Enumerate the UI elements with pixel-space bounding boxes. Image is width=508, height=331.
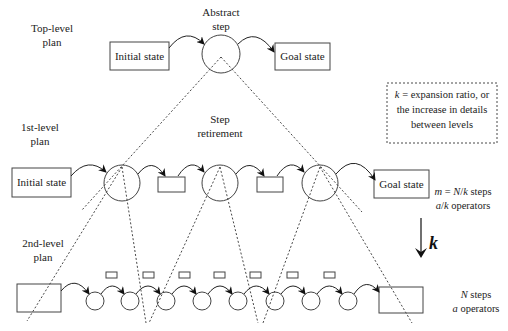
second-operator-box-4 xyxy=(214,272,225,278)
second-step-circle-8 xyxy=(339,292,357,310)
first-transition-arrow-5 xyxy=(277,165,304,176)
second-step-circle-7 xyxy=(302,292,320,310)
first-level-label-line2: plan xyxy=(31,135,50,147)
first-goal-state-label: Goal state xyxy=(379,178,423,190)
legend-line-3: between levels xyxy=(411,119,473,130)
second-operator-box-6 xyxy=(287,272,298,278)
legend-line-1: k = expansion ratio, or xyxy=(395,89,490,100)
second-level-label: 2nd-level xyxy=(22,237,64,249)
top-goal-state-label: Goal state xyxy=(280,50,324,62)
top-level-label: Top-level xyxy=(31,22,73,34)
second-step-circle-4 xyxy=(193,292,211,310)
abstract-step-label-line2: step xyxy=(212,20,230,32)
second-step-circle-5 xyxy=(229,292,247,310)
expansion-arrow: k xyxy=(421,218,438,256)
second-level-operators-stat: a operators xyxy=(453,303,500,314)
first-transition-arrow-3 xyxy=(178,165,204,176)
second-transition-arrow-4 xyxy=(172,286,196,294)
first-step2-right-expansion-line xyxy=(220,167,258,323)
step-retirement-label: Step xyxy=(210,113,230,125)
decomposition-lines xyxy=(27,57,412,323)
step-retirement-label-line2: retirement xyxy=(197,127,242,139)
second-operator-box-1 xyxy=(106,272,117,278)
second-level-plan: 2nd-level plan N steps a operators xyxy=(17,237,499,314)
second-operator-box-7 xyxy=(324,272,335,278)
first-transition-arrow-6 xyxy=(336,163,375,180)
second-transition-arrow-7 xyxy=(281,286,305,294)
first-transition-arrow-2 xyxy=(138,165,165,176)
first-step-circle-3 xyxy=(302,165,338,201)
first-transition-arrow-4 xyxy=(236,165,264,176)
second-transition-arrow-6 xyxy=(244,286,269,294)
first-level-label: 1st-level xyxy=(21,121,59,133)
second-step-circle-3 xyxy=(157,292,175,310)
top-level-plan: Top-level plan Abstract step Initial sta… xyxy=(31,6,330,73)
second-operator-box-2 xyxy=(143,272,154,278)
second-level-label-line2: plan xyxy=(34,251,53,263)
top-level-label-line2: plan xyxy=(43,36,62,48)
first-operator-box-2 xyxy=(257,177,283,192)
second-level-steps-stat: N steps xyxy=(460,289,492,300)
top-transition-arrow-2 xyxy=(238,37,274,52)
first-step1-right-expansion-line xyxy=(122,167,146,323)
legend: k = expansion ratio, or the increase in … xyxy=(387,83,497,143)
abstract-step-label: Abstract xyxy=(202,6,239,18)
second-step-circle-1 xyxy=(86,292,104,310)
first-level-operators-stat: a/k operators xyxy=(436,200,491,211)
second-transition-arrow-2 xyxy=(101,286,124,294)
second-goal-state-box xyxy=(379,287,423,313)
second-step-circle-6 xyxy=(266,292,284,310)
first-initial-state-label: Initial state xyxy=(17,176,66,188)
second-transition-arrow-1 xyxy=(61,283,89,294)
abstract-step-circle xyxy=(202,35,240,73)
second-initial-state-box xyxy=(17,284,61,312)
expansion-ratio-label: k xyxy=(429,233,438,253)
second-operator-box-5 xyxy=(250,272,261,278)
second-step-circle-2 xyxy=(121,292,139,310)
first-step-circle-1 xyxy=(104,165,140,201)
second-transition-arrow-9 xyxy=(354,284,379,294)
hierarchical-planning-diagram: Top-level plan Abstract step Initial sta… xyxy=(0,0,508,331)
top-initial-state-label: Initial state xyxy=(115,50,164,62)
second-transition-arrow-5 xyxy=(208,286,232,294)
legend-line-2: the increase in details xyxy=(397,104,488,115)
second-operator-box-3 xyxy=(179,272,190,278)
first-operator-box-1 xyxy=(158,177,185,192)
first-level-steps-stat: m = N/k steps xyxy=(435,186,492,197)
first-step-circle-2 xyxy=(202,165,238,201)
second-transition-arrow-8 xyxy=(317,286,342,294)
top-transition-arrow-1 xyxy=(169,36,204,48)
second-transition-arrow-3 xyxy=(136,286,160,294)
first-transition-arrow-1 xyxy=(71,165,106,176)
